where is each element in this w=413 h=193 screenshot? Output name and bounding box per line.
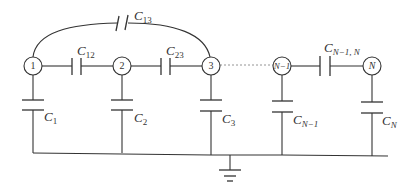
node-2-label: 2 (112, 56, 132, 76)
node-3-label: 3 (201, 56, 221, 76)
label-c1: C1 (44, 110, 57, 126)
node-1-label: 1 (23, 56, 43, 76)
node-n-label: N (362, 56, 382, 76)
label-c12: C12 (77, 44, 95, 60)
capacitor-c12-symbol (72, 58, 81, 75)
ground-capacitor-cn-symbol (361, 75, 383, 156)
label-cn1n: CN−1, N (324, 41, 360, 57)
label-c3: C3 (222, 112, 235, 128)
capacitor-c23-symbol (161, 58, 170, 75)
label-c23: C23 (166, 44, 184, 60)
circuit-diagram (0, 0, 413, 193)
capacitor-c13-symbol (116, 15, 128, 31)
ground-capacitor-c2-symbol (111, 75, 133, 153)
ground-icon (219, 155, 241, 181)
label-c2: C2 (134, 111, 147, 127)
label-c13: C13 (134, 9, 152, 25)
node-n-minus-1-label: N−1 (272, 56, 292, 76)
ground-capacitor-c1-symbol (22, 75, 44, 153)
capacitor-cn1n-symbol (320, 56, 330, 76)
ground-capacitor-cn1-symbol (272, 75, 293, 155)
ground-capacitor-c3-symbol (200, 75, 222, 155)
label-cn: CN (382, 114, 397, 130)
label-cn1: CN−1 (293, 113, 318, 129)
